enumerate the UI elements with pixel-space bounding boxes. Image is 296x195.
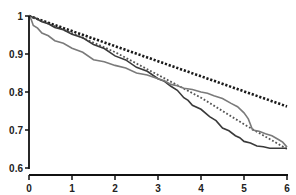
- plot-area: [29, 16, 287, 149]
- x-tick-label: 5: [241, 183, 247, 194]
- x-tick-label: 1: [69, 183, 75, 194]
- chart-canvas: 0.60.70.80.91 0123456: [0, 0, 296, 195]
- series-expected-black-dotted: [29, 16, 287, 106]
- y-tick-label: 0.8: [9, 87, 23, 98]
- x-axis-ticks: 0123456: [26, 175, 290, 194]
- axes: [29, 16, 288, 175]
- x-tick-label: 6: [284, 183, 290, 194]
- y-tick-label: 1: [17, 11, 23, 22]
- y-tick-label: 0.9: [9, 49, 23, 60]
- y-axis-ticks: 0.60.70.80.91: [9, 11, 29, 174]
- x-tick-label: 2: [112, 183, 118, 194]
- x-tick-label: 3: [155, 183, 161, 194]
- x-tick-label: 4: [198, 183, 204, 194]
- y-tick-label: 0.6: [9, 163, 23, 174]
- series-observed-dark-step: [29, 16, 287, 148]
- x-tick-label: 0: [26, 183, 32, 194]
- series-expected-gray-dotted: [29, 16, 287, 149]
- y-tick-label: 0.7: [9, 125, 23, 136]
- series-observed-gray-step: [29, 16, 287, 147]
